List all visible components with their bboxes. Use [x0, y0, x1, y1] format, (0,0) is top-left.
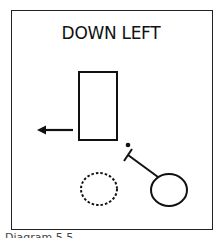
dashed-circle [81, 173, 117, 205]
arrow-left-icon [37, 126, 73, 135]
diagram-caption: Diagram 5.5 [5, 231, 73, 238]
dot-marker [126, 143, 131, 148]
ball-circle [151, 174, 187, 206]
diagram-canvas [0, 0, 222, 238]
club-icon [124, 149, 158, 177]
rectangle-shape [79, 72, 117, 140]
